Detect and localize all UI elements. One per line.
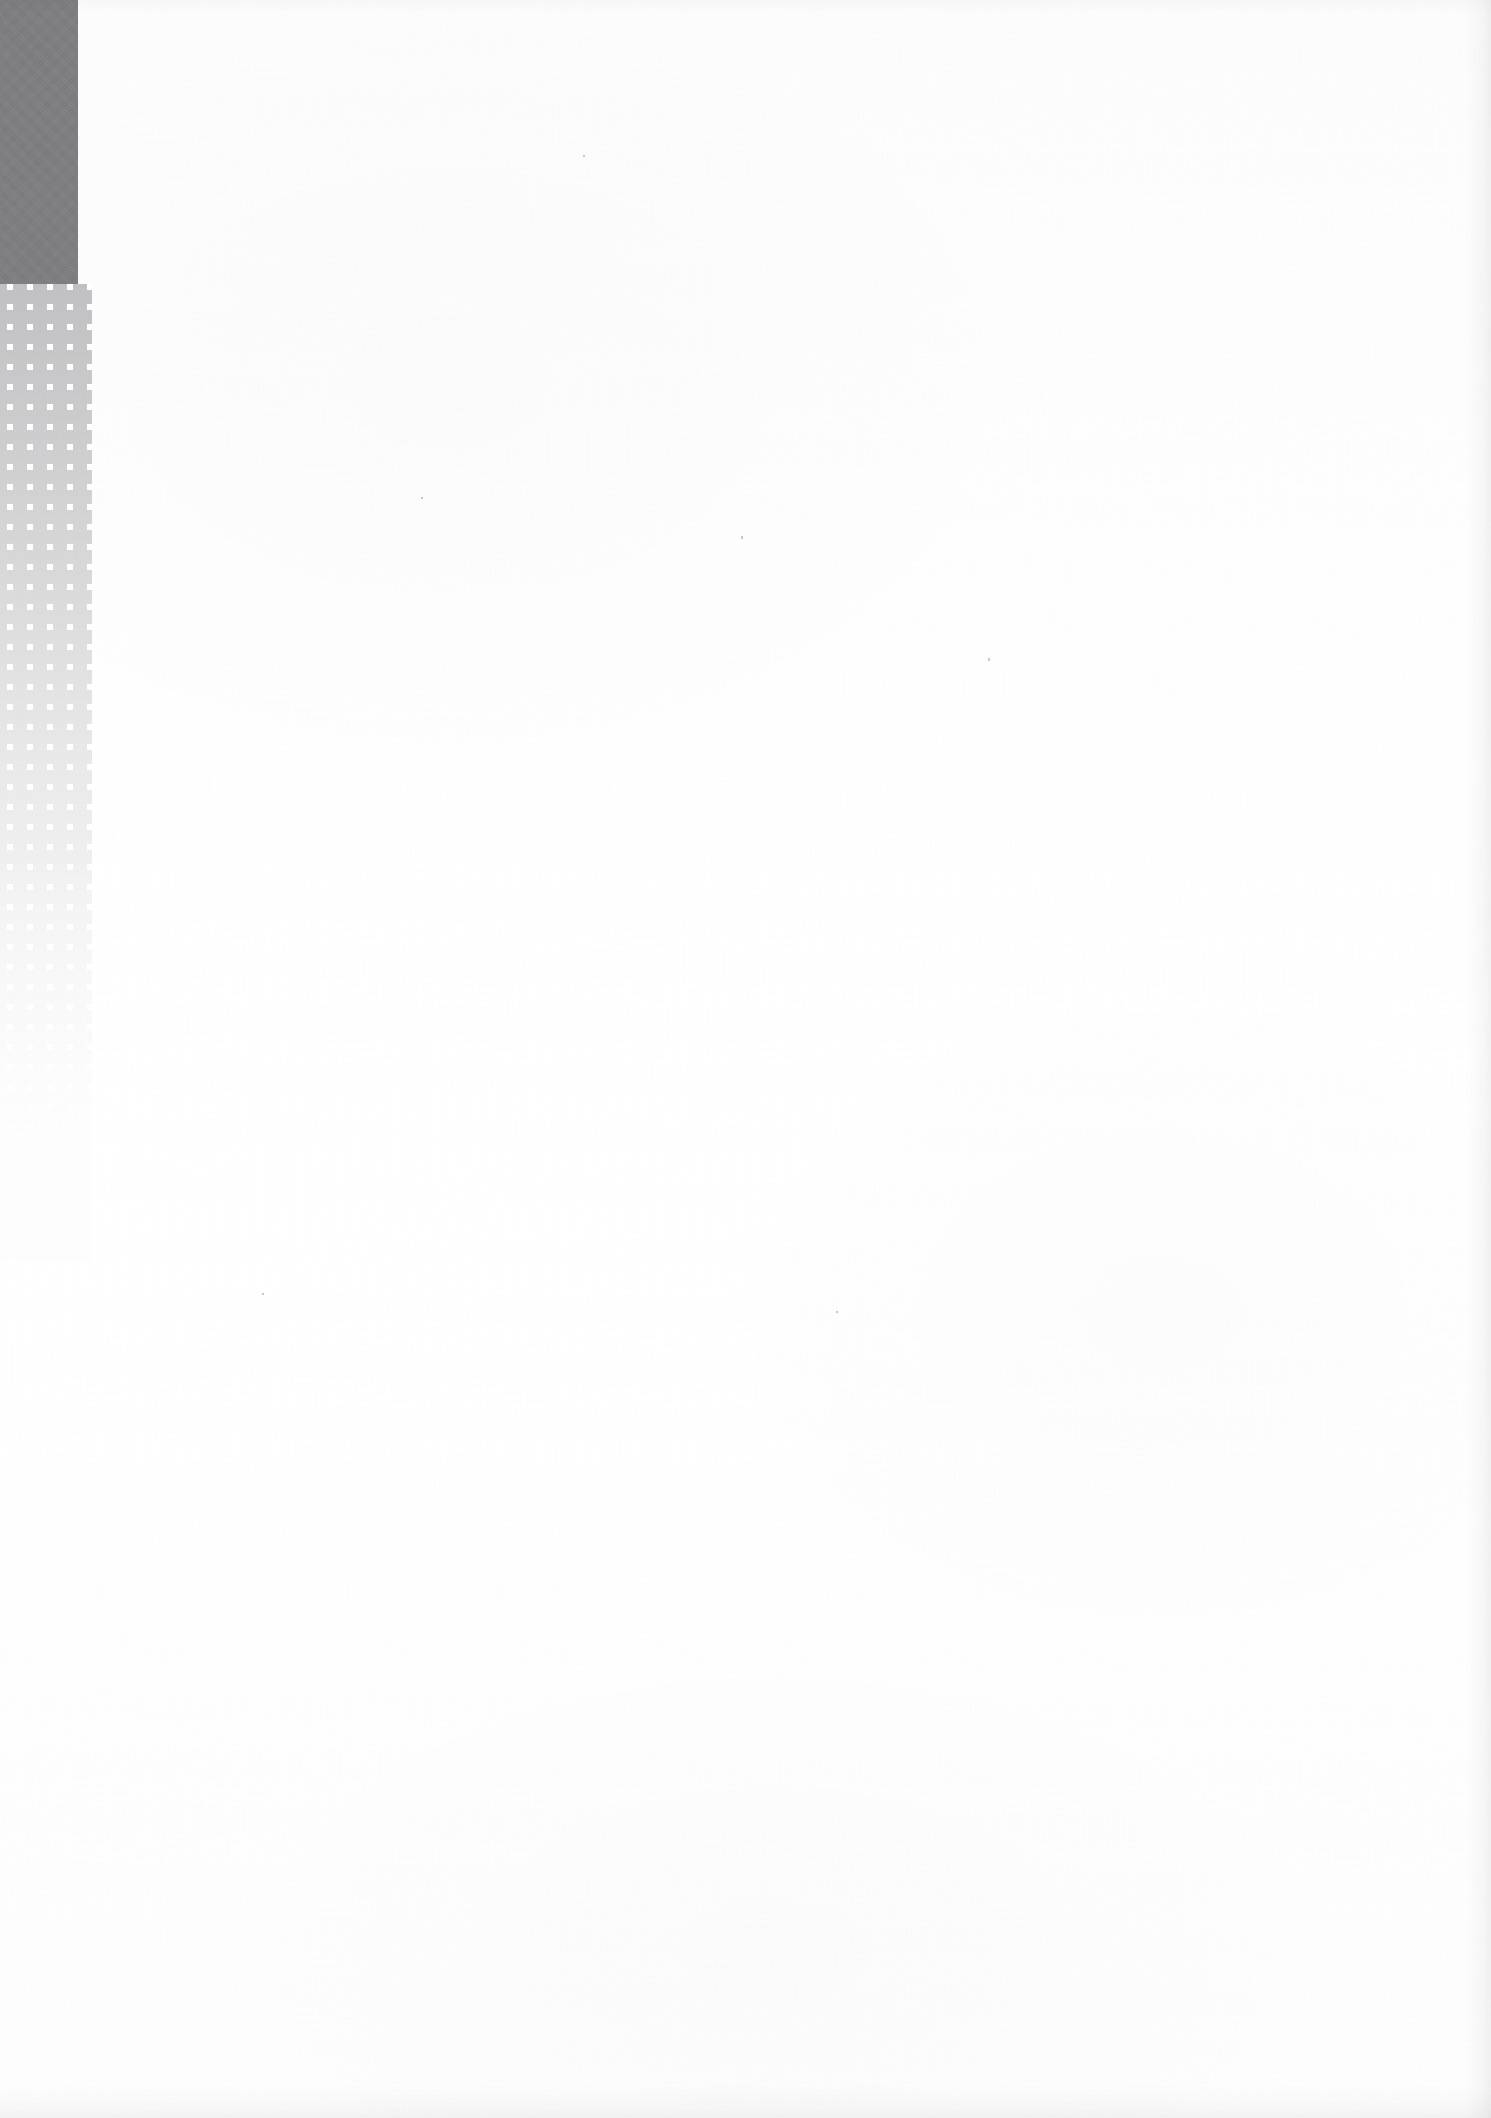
- paper-texture: [0, 0, 1491, 2118]
- decoration-halftone-dot-band: [0, 284, 92, 1262]
- scanned-page: [0, 0, 1491, 2118]
- margin-decoration: [0, 0, 95, 1270]
- page-edge-shadow-bottom: [0, 2084, 1491, 2118]
- page-edge-shadow-top: [0, 0, 1491, 14]
- scan-speck: [583, 155, 585, 157]
- scan-speck: [262, 1293, 264, 1295]
- scan-speck: [988, 658, 990, 661]
- scan-speck: [741, 536, 743, 539]
- scan-speck: [421, 497, 423, 499]
- page-edge-shadow-right: [1465, 0, 1491, 2118]
- decoration-dark-slab: [0, 0, 78, 284]
- dot-band-fade: [0, 284, 92, 1262]
- scan-speck: [836, 1311, 838, 1313]
